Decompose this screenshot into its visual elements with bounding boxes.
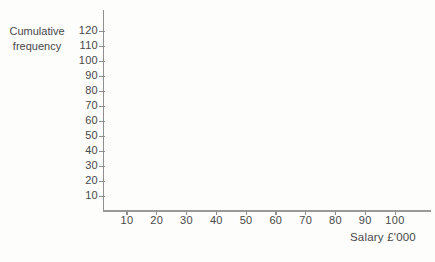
y-axis-tick-label: 20 [64, 174, 98, 187]
x-axis-tick-label: 20 [142, 214, 172, 226]
y-axis-tick [99, 151, 105, 152]
y-axis-tick-label: 60 [64, 114, 98, 127]
y-axis-tick-label: 10 [64, 189, 98, 202]
x-axis-line [103, 210, 431, 212]
y-axis-title-line1: Cumulative [6, 24, 68, 39]
x-axis-tick-label: 40 [201, 214, 231, 226]
y-axis-tick-label: 40 [64, 144, 98, 157]
y-axis-tick [99, 166, 105, 167]
cumulative-frequency-chart: Cumulative frequency Salary £'000 102030… [0, 0, 435, 262]
x-axis-title: Salary £'000 [336, 231, 430, 243]
y-axis-tick-label: 30 [64, 159, 98, 172]
y-axis-tick-label: 70 [64, 99, 98, 112]
y-axis-tick [99, 46, 105, 47]
y-axis-tick-label: 120 [64, 24, 98, 37]
x-axis-tick-label: 100 [380, 214, 410, 226]
y-axis-tick [99, 61, 105, 62]
x-axis-tick-label: 90 [350, 214, 380, 226]
x-axis-tick-label: 30 [172, 214, 202, 226]
y-axis-title-line2: frequency [6, 39, 68, 54]
y-axis-tick [99, 136, 105, 137]
x-axis-tick-label: 10 [112, 214, 142, 226]
y-axis-tick [99, 31, 105, 32]
y-axis-tick [99, 181, 105, 182]
x-axis-tick-label: 80 [320, 214, 350, 226]
y-axis-tick-label: 80 [64, 84, 98, 97]
x-axis-tick-label: 60 [261, 214, 291, 226]
y-axis-tick [99, 106, 105, 107]
y-axis-tick-label: 90 [64, 69, 98, 82]
y-axis-tick-label: 110 [64, 39, 98, 52]
y-axis-tick [99, 121, 105, 122]
y-axis-tick [99, 91, 105, 92]
x-axis-tick-label: 50 [231, 214, 261, 226]
y-axis-title: Cumulative frequency [6, 24, 68, 54]
y-axis-tick-label: 100 [64, 54, 98, 67]
y-axis-tick [99, 76, 105, 77]
y-axis-tick [99, 196, 105, 197]
y-axis-tick-label: 50 [64, 129, 98, 142]
x-axis-tick-label: 70 [291, 214, 321, 226]
